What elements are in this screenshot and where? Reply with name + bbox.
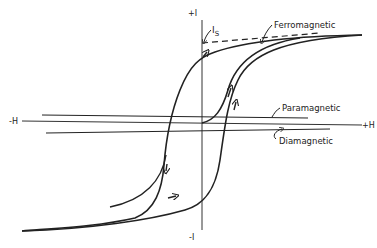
x-axis-left-label: -H xyxy=(9,117,18,126)
y-axis-bottom-label: -I xyxy=(189,233,194,242)
x-axis-right-label: +H xyxy=(362,121,375,130)
x-axis xyxy=(22,121,362,125)
arrow-icon xyxy=(234,102,236,110)
ferromagnetic-leader xyxy=(262,25,272,42)
paramagnetic-leader xyxy=(272,108,280,117)
diamagnetic-line xyxy=(46,129,330,133)
saturation-label: IS xyxy=(212,25,220,38)
arrow-icon xyxy=(166,164,167,171)
diamagnetic-label: Diamagnetic xyxy=(279,136,333,146)
magnetization-diagram: +I -I -H +H IS Ferromagnetic Paramagneti… xyxy=(0,0,377,248)
inner-branch xyxy=(110,155,166,207)
saturation-leader xyxy=(204,30,211,42)
y-axis-top-label: +I xyxy=(188,9,197,18)
paramagnetic-line xyxy=(42,115,308,118)
arrow-icon xyxy=(168,196,176,198)
paramagnetic-label: Paramagnetic xyxy=(282,103,341,113)
ferromagnetic-label: Ferromagnetic xyxy=(274,20,336,30)
